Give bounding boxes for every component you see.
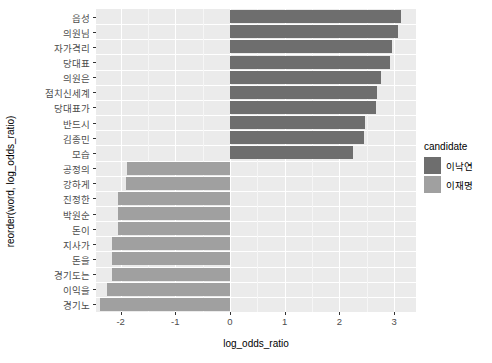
bar [230,10,401,23]
legend-swatch [424,157,441,174]
y-tick-label: 당대표가 [54,101,90,115]
x-tick-mark [339,312,340,315]
y-tick-label: 의원님 [63,26,90,40]
bar [112,268,230,281]
y-tick-label: 박원순 [63,208,90,222]
y-tick-mark [93,244,96,245]
legend-item: 이재명 [424,176,473,193]
y-tick-mark [93,198,96,199]
x-tick-mark [230,312,231,315]
legend-entries: 이낙연이재명 [424,157,473,193]
bar [230,71,381,84]
y-tick-mark [93,77,96,78]
bar [230,116,365,129]
y-tick-mark [93,62,96,63]
bar [230,25,398,38]
bar [126,177,230,190]
x-tick-label: 1 [270,316,300,327]
y-tick-mark [93,289,96,290]
bar [107,283,230,296]
y-tick-label: 지사가 [63,238,90,252]
vertical-gridline-minor [367,9,368,312]
y-tick-label: 점치신세계 [45,86,90,100]
x-tick-mark [121,312,122,315]
vertical-gridline-major [175,9,176,312]
legend-item: 이낙연 [424,157,473,174]
vertical-gridline-minor [312,9,313,312]
legend-title: candidate [424,141,473,152]
legend-key [424,157,441,174]
y-tick-mark [93,229,96,230]
y-tick-label: 돈이 [72,223,90,237]
bar [127,162,230,175]
vertical-gridline-major [230,9,231,312]
y-tick-label: 자가격리 [54,41,90,55]
vertical-gridline-minor [257,9,258,312]
bar [230,56,390,69]
y-tick-mark [93,304,96,305]
bar [230,131,364,144]
vertical-gridline-major [339,9,340,312]
bar [100,298,230,311]
x-tick-label: 2 [324,316,354,327]
x-axis-title: log_odds_ratio [96,338,416,349]
bar-chart: reorder(word, log_odds_ratio) -2-10123읍성… [0,0,492,363]
bar [230,86,377,99]
y-tick-mark [93,47,96,48]
x-tick-mark [394,312,395,315]
y-tick-label: 강하게 [63,177,90,191]
x-tick-mark [175,312,176,315]
bar [118,192,230,205]
legend-label: 이재명 [446,178,473,192]
y-tick-mark [93,153,96,154]
y-tick-mark [93,183,96,184]
x-tick-label: 3 [379,316,409,327]
y-tick-label: 공정의 [63,162,90,176]
y-tick-label: 모습 [72,147,90,161]
plot-panel [96,9,416,312]
y-tick-mark [93,107,96,108]
x-tick-mark [285,312,286,315]
vertical-gridline-minor [148,9,149,312]
y-tick-label: 경기노 [63,298,90,312]
y-tick-label: 반드시 [63,117,90,131]
bar [230,40,392,53]
y-tick-label: 이익을 [63,283,90,297]
y-tick-mark [93,274,96,275]
y-tick-mark [93,123,96,124]
y-tick-label: 당대표 [63,56,90,70]
legend-key [424,176,441,193]
y-tick-mark [93,17,96,18]
y-tick-label: 읍성 [72,11,90,25]
y-tick-mark [93,259,96,260]
y-axis-title: reorder(word, log_odds_ratio) [2,0,20,363]
y-tick-label: 경기도는 [54,268,90,282]
y-tick-label: 진정한 [63,192,90,206]
legend: candidate 이낙연이재명 [424,141,473,195]
vertical-gridline-major [285,9,286,312]
bar [118,207,230,220]
bar [230,101,376,114]
vertical-gridline-major [121,9,122,312]
vertical-gridline-minor [203,9,204,312]
x-tick-label: -2 [106,316,136,327]
bar [230,146,353,159]
x-tick-label: 0 [215,316,245,327]
y-tick-label: 의원은 [63,71,90,85]
y-tick-label: 돈을 [72,253,90,267]
x-tick-label: -1 [160,316,190,327]
bar [112,252,230,265]
y-tick-mark [93,214,96,215]
legend-label: 이낙연 [446,159,473,173]
vertical-gridline-major [394,9,395,312]
y-tick-mark [93,92,96,93]
y-tick-label: 김종민 [63,132,90,146]
bar [112,237,230,250]
bar [118,222,230,235]
legend-swatch [424,176,441,193]
y-tick-mark [93,168,96,169]
y-tick-mark [93,32,96,33]
y-tick-mark [93,138,96,139]
